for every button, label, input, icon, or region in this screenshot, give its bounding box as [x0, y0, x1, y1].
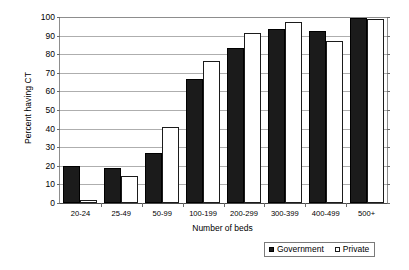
bar-government-25-49	[104, 168, 121, 203]
bar-chart: Percent having CT 0102030405060708090100…	[0, 0, 409, 270]
x-tick-label: 300-399	[271, 209, 299, 218]
x-axis-separator	[224, 203, 225, 207]
bar-group	[142, 17, 183, 203]
bar-government-200-299	[227, 48, 244, 203]
y-tick-mark-right	[387, 184, 390, 185]
bar-group	[264, 17, 305, 203]
bar-government-500+	[350, 18, 367, 203]
y-tick-mark-right	[387, 36, 390, 37]
y-tick-label: 10	[46, 179, 55, 189]
y-tick-label: 70	[46, 68, 55, 78]
x-tick-label: 25-49	[112, 209, 131, 218]
x-axis-separator	[346, 203, 347, 207]
x-axis-separator	[183, 203, 184, 207]
y-tick-mark-right	[387, 166, 390, 167]
x-axis-separator	[101, 203, 102, 207]
y-tick-mark-right	[387, 129, 390, 130]
bar-government-400-499	[309, 31, 326, 203]
y-tick-label: 0	[50, 198, 55, 208]
bar-private-500+	[367, 19, 384, 203]
bars-layer	[60, 17, 387, 203]
bar-group	[183, 17, 224, 203]
legend-swatch-icon	[335, 247, 340, 252]
x-axis-separator	[305, 203, 306, 207]
legend-entry-private: Private	[335, 245, 369, 254]
y-tick-label: 80	[46, 49, 55, 59]
y-tick-label: 40	[46, 124, 55, 134]
bar-private-50-99	[162, 127, 179, 203]
y-tick-label: 50	[46, 105, 55, 115]
x-tick-label: 500+	[358, 209, 375, 218]
legend-label: Government	[277, 245, 324, 254]
bar-private-400-499	[326, 41, 343, 203]
legend-swatch-icon	[269, 247, 274, 252]
bar-group	[305, 17, 346, 203]
legend-label: Private	[343, 245, 369, 254]
bar-private-100-199	[203, 61, 220, 203]
y-tick-label: 30	[46, 142, 55, 152]
y-tick-mark-right	[387, 147, 390, 148]
y-tick-mark	[57, 203, 60, 204]
bar-group	[60, 17, 101, 203]
x-tick-label: 200-299	[230, 209, 258, 218]
bar-group	[224, 17, 265, 203]
x-axis-separator	[142, 203, 143, 207]
bar-group	[101, 17, 142, 203]
x-axis-title: Number of beds	[59, 223, 386, 233]
bar-private-25-49	[121, 176, 138, 203]
y-tick-label: 100	[41, 12, 55, 22]
bar-private-300-399	[285, 22, 302, 203]
bar-government-100-199	[186, 79, 203, 203]
legend-entry-government: Government	[269, 245, 324, 254]
y-axis-title: Percent having CT	[23, 28, 33, 188]
bar-private-20-24	[80, 200, 97, 203]
y-tick-mark-right	[387, 17, 390, 18]
y-tick-label: 20	[46, 161, 55, 171]
chart-legend: GovernmentPrivate	[264, 242, 375, 257]
plot-area: 0102030405060708090100 20-2425-4950-9910…	[59, 17, 388, 203]
bar-government-50-99	[145, 153, 162, 203]
y-tick-label: 60	[46, 86, 55, 96]
bar-group	[346, 17, 387, 203]
y-tick-label: 90	[46, 31, 55, 41]
bar-private-200-299	[244, 33, 261, 203]
y-tick-mark-right	[387, 91, 390, 92]
x-tick-label: 50-99	[152, 209, 171, 218]
x-tick-label: 20-24	[71, 209, 90, 218]
y-tick-mark-right	[387, 54, 390, 55]
x-axis-separator	[264, 203, 265, 207]
x-tick-label: 400-499	[312, 209, 340, 218]
y-tick-mark-right	[387, 110, 390, 111]
y-tick-mark-right	[387, 203, 390, 204]
x-tick-label: 100-199	[189, 209, 217, 218]
bar-government-20-24	[63, 166, 80, 203]
bar-government-300-399	[268, 29, 285, 203]
y-tick-mark-right	[387, 73, 390, 74]
